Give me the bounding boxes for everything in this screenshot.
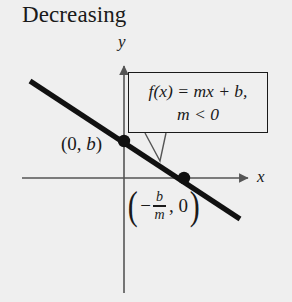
x-axis-label: x [257,168,265,185]
formula-callout-box: f(x) = mx + b, m < 0 [128,72,268,133]
y-intercept-label-b: b [86,133,96,154]
formula-line-1: f(x) = mx + b, [149,80,248,103]
decreasing-linear-function-figure: Decreasing y x f(x) = mx + b, m < 0 (0, … [0,0,292,302]
fraction-numerator: b [156,190,163,205]
x-intercept-close-paren: ) [190,186,200,226]
y-axis-label: y [118,33,126,50]
formula-line-2: m < 0 [177,103,219,126]
x-intercept-open-paren: ( [128,186,138,226]
y-intercept-label-close: ) [96,133,102,154]
y-intercept-label: (0, b) [61,133,102,155]
point-x-intercept [178,172,190,184]
point-y-intercept [118,135,130,147]
x-intercept-label: ( − b m , 0 ) [126,186,201,226]
x-intercept-tail: , 0 [167,196,188,216]
x-intercept-minus: − [139,196,152,216]
y-intercept-label-open: (0, [61,133,86,154]
fraction-denominator: m [154,207,164,222]
b-over-m-fraction: b m [153,190,166,221]
graph-canvas [0,0,292,302]
